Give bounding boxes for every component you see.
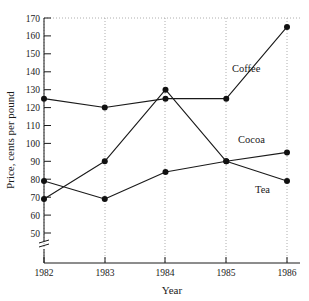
data-point — [102, 105, 108, 111]
y-tick-label: 80 — [31, 175, 41, 185]
price-line-chart: 170 160 150 140 130 120 110 100 90 80 70… — [0, 0, 309, 301]
series-label-coffee: Coffee — [232, 63, 261, 74]
series-label-cocoa: Cocoa — [238, 134, 265, 145]
data-point — [41, 96, 47, 102]
data-point — [41, 178, 47, 184]
data-point — [284, 24, 290, 30]
y-tick-label: 120 — [26, 103, 41, 113]
data-point — [41, 196, 47, 202]
y-tick-label: 150 — [26, 49, 41, 59]
y-tick-label: 100 — [26, 139, 41, 149]
data-point — [102, 158, 108, 164]
x-tick-label: 1983 — [96, 268, 115, 278]
data-point — [163, 96, 169, 102]
y-axis-title: Price, cents per pound — [4, 91, 16, 189]
x-axis-title: Year — [162, 284, 183, 296]
chart-background — [0, 0, 309, 301]
data-point — [223, 158, 229, 164]
y-tick-label: 140 — [26, 67, 41, 77]
data-point — [163, 169, 169, 175]
data-point — [102, 196, 108, 202]
data-point — [284, 178, 290, 184]
y-tick-label: 110 — [26, 121, 40, 131]
x-tick-label: 1982 — [35, 268, 54, 278]
series-label-tea: Tea — [255, 184, 270, 195]
y-tick-label: 60 — [31, 211, 41, 221]
data-point — [223, 96, 229, 102]
data-point — [284, 149, 290, 155]
x-tick-label: 1986 — [278, 268, 297, 278]
y-tick-label: 50 — [31, 229, 41, 239]
x-tick-label: 1984 — [156, 268, 175, 278]
chart-figure: 170 160 150 140 130 120 110 100 90 80 70… — [0, 0, 309, 301]
y-tick-label: 70 — [31, 193, 41, 203]
x-tick-label: 1985 — [217, 268, 236, 278]
y-tick-label: 90 — [31, 157, 41, 167]
y-tick-label: 160 — [26, 31, 41, 41]
y-tick-label: 170 — [26, 14, 41, 24]
data-point — [163, 87, 169, 93]
y-tick-label: 130 — [26, 85, 41, 95]
